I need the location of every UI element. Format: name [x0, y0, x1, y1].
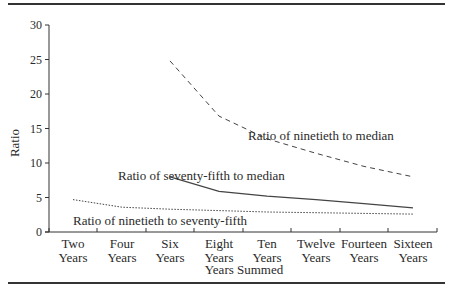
series-line-2 — [73, 200, 413, 215]
x-tick-label: Twelve — [297, 236, 335, 251]
x-tick-label: Four — [110, 236, 135, 251]
x-tick-label: Years — [107, 250, 136, 265]
x-tick-label: Years — [301, 250, 330, 265]
y-axis-label: Ratio — [7, 129, 22, 157]
series-line-0 — [170, 61, 413, 177]
annotation-ninetieth-to-median: Ratio of ninetieth to median — [248, 128, 394, 143]
y-tick-label: 30 — [30, 18, 42, 32]
x-tick-label: Ten — [257, 236, 277, 251]
y-tick-label: 10 — [30, 156, 42, 170]
annotation-ninetieth-to-seventy-fifth: Ratio of ninetieth to seventy-fifth — [73, 213, 248, 228]
y-tick-label: 5 — [36, 191, 42, 205]
x-tick-label: Years — [398, 250, 427, 265]
y-tick-label: 15 — [30, 122, 42, 136]
x-tick-label: Six — [161, 236, 179, 251]
x-tick-label: Two — [62, 236, 85, 251]
x-tick-label: Years — [155, 250, 184, 265]
y-tick-label: 20 — [30, 87, 42, 101]
y-tick-label: 25 — [30, 53, 42, 67]
x-tick-label: Fourteen — [341, 236, 388, 251]
y-tick-label: 0 — [36, 225, 42, 239]
line-chart: 051015202530TwoYearsFourYearsSixYearsEig… — [0, 0, 451, 294]
x-tick-label: Years — [349, 250, 378, 265]
x-axis-label: Years Summed — [205, 262, 284, 277]
annotation-seventy-fifth-to-median: Ratio of seventy-fifth to median — [118, 168, 285, 183]
x-tick-label: Sixteen — [394, 236, 433, 251]
x-tick-label: Years — [58, 250, 87, 265]
x-tick-label: Eight — [205, 236, 234, 251]
